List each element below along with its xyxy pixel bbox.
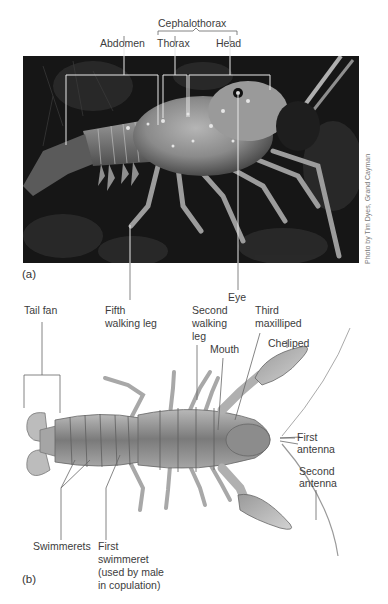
label-first-antenna-1: First	[297, 431, 317, 443]
label-first-antenna-2: antenna	[297, 443, 335, 455]
panel-a-tag: (a)	[22, 268, 36, 280]
label-second-walking-leg-1: Second	[192, 304, 228, 316]
label-second-antenna-1: Second	[299, 465, 335, 477]
label-first-swimmeret-3: (used by male	[98, 566, 164, 578]
label-swimmerets: Swimmerets	[33, 540, 91, 552]
label-fifth-walking-leg-1: Fifth	[105, 304, 125, 316]
label-mouth: Mouth	[210, 343, 239, 355]
label-second-walking-leg-2: walking	[192, 317, 227, 329]
label-second-antenna-2: antenna	[299, 477, 337, 489]
label-first-swimmeret-2: swimmeret	[98, 553, 149, 565]
label-tail-fan: Tail fan	[24, 304, 57, 316]
label-head: Head	[216, 37, 241, 49]
label-cephalothorax: Cephalothorax	[158, 17, 226, 29]
label-fifth-walking-leg-2: walking leg	[105, 317, 157, 329]
label-first-swimmeret-1: First	[98, 540, 118, 552]
label-third-maxilliped-1: Third	[255, 304, 279, 316]
label-second-walking-leg-3: leg	[192, 330, 206, 342]
label-third-maxilliped-2: maxilliped	[255, 317, 302, 329]
leader-lines	[0, 0, 388, 604]
label-eye: Eye	[228, 291, 246, 303]
label-first-swimmeret-4: in copulation)	[98, 579, 160, 591]
panel-b-tag: (b)	[22, 573, 36, 585]
label-thorax: Thorax	[157, 37, 190, 49]
label-cheliped: Cheliped	[268, 337, 309, 349]
label-abdomen: Abdomen	[100, 37, 145, 49]
